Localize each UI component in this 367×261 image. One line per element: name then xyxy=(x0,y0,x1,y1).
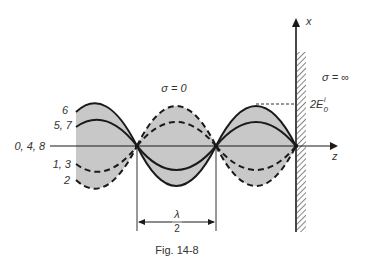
standing-wave-diagram: λ 2 x z σ = 0 σ = ∞ 2E0i 6 5, 7 0, 4, 8 … xyxy=(0,0,367,261)
curve-label-6: 6 xyxy=(62,104,69,116)
z-axis-label: z xyxy=(331,150,338,162)
z-axis-arrow-icon xyxy=(330,142,338,150)
curve-label-1-3: 1, 3 xyxy=(53,158,72,170)
curve-label-0-4-8: 0, 4, 8 xyxy=(14,140,45,152)
node-dot xyxy=(214,144,218,148)
sigma-zero-label: σ = 0 xyxy=(161,82,187,94)
dimension-arrow-left-icon xyxy=(138,219,145,225)
x-axis-label: x xyxy=(305,15,312,27)
node-dot xyxy=(135,144,139,148)
x-axis-arrow-icon xyxy=(292,18,300,27)
node-dot xyxy=(294,144,298,148)
lambda-numerator: λ xyxy=(173,208,179,220)
amplitude-label: 2E0i xyxy=(309,96,328,114)
dimension-arrow-right-icon xyxy=(208,219,215,225)
curve-label-5-7: 5, 7 xyxy=(54,119,73,131)
lambda-denominator: 2 xyxy=(174,223,180,234)
figure-caption: Fig. 14-8 xyxy=(155,244,198,256)
perfect-conductor-hatch xyxy=(297,52,306,232)
sigma-infinity-label: σ = ∞ xyxy=(322,71,349,83)
curve-label-2: 2 xyxy=(63,174,70,186)
